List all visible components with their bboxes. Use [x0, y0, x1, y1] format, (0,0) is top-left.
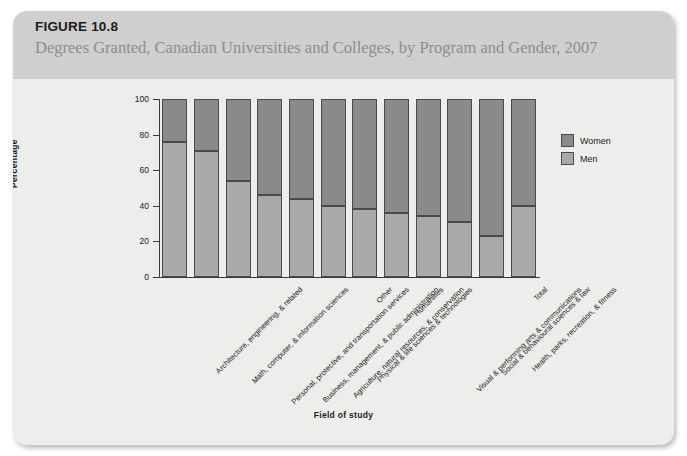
y-axis-tick-label: 60 [109, 165, 149, 175]
y-axis-tick-label: 40 [109, 201, 149, 211]
bar-segment-men[interactable] [416, 216, 441, 277]
bar-group[interactable] [384, 99, 409, 277]
y-axis-tick-label: 80 [109, 130, 149, 140]
y-axis-title: Percentage [13, 139, 19, 188]
bar-segment-women[interactable] [352, 99, 377, 209]
figure-number: FIGURE 10.8 [35, 19, 118, 34]
bar-segment-men[interactable] [194, 151, 219, 277]
x-axis-tick-label: Math, computer, & information sciences [249, 285, 349, 385]
bar-group[interactable] [226, 99, 251, 277]
y-axis-tick-labels: 020406080100 [105, 79, 149, 445]
bar-segment-women[interactable] [257, 99, 282, 195]
bar-segment-men[interactable] [511, 206, 536, 277]
y-axis-tick-label: 20 [109, 236, 149, 246]
bar-group[interactable] [511, 99, 536, 277]
bar-segment-women[interactable] [384, 99, 409, 213]
bar-segment-men[interactable] [321, 206, 346, 277]
bar-group[interactable] [289, 99, 314, 277]
bar-segment-men[interactable] [162, 142, 187, 277]
bar-group[interactable] [162, 99, 187, 277]
x-axis-tick-label: Agriculture, natural resources, & conser… [351, 285, 466, 400]
bar-segment-women[interactable] [447, 99, 472, 222]
bar-group[interactable] [352, 99, 377, 277]
chart-legend: WomenMen [561, 134, 657, 170]
bar-group[interactable] [416, 99, 441, 277]
bar-group[interactable] [194, 99, 219, 277]
legend-label: Women [580, 136, 611, 146]
bar-segment-men[interactable] [257, 195, 282, 277]
bar-segment-women[interactable] [194, 99, 219, 151]
bar-segment-men[interactable] [289, 199, 314, 277]
x-axis-tick-label: Architecture, engineering, & related [214, 285, 305, 376]
legend-label: Men [580, 154, 598, 164]
bar-segment-women[interactable] [511, 99, 536, 206]
bar-segment-women[interactable] [226, 99, 251, 181]
bar-segment-women[interactable] [289, 99, 314, 199]
x-axis-title: Field of study [13, 410, 674, 420]
figure-subtitle: Degrees Granted, Canadian Universities a… [35, 38, 597, 58]
chart-panel: Percentage 020406080100 Architecture, en… [13, 79, 674, 445]
legend-item[interactable]: Men [561, 152, 657, 165]
bar-group[interactable] [447, 99, 472, 277]
bar-segment-women[interactable] [321, 99, 346, 206]
bar-segment-women[interactable] [479, 99, 504, 236]
bar-group[interactable] [321, 99, 346, 277]
bar-group[interactable] [479, 99, 504, 277]
bar-segment-men[interactable] [479, 236, 504, 277]
bar-segment-men[interactable] [352, 209, 377, 277]
bar-segment-women[interactable] [162, 99, 187, 142]
x-axis-tick-labels: Architecture, engineering, & relatedMath… [159, 281, 540, 411]
bar-group[interactable] [257, 99, 282, 277]
y-axis-tick-label: 100 [109, 94, 149, 104]
figure-header-band: FIGURE 10.8 Degrees Granted, Canadian Un… [13, 11, 674, 79]
y-axis-tick-label: 0 [109, 272, 149, 282]
legend-swatch-women [561, 134, 574, 147]
x-axis-line [159, 277, 540, 278]
bar-segment-men[interactable] [384, 213, 409, 277]
legend-swatch-men [561, 152, 574, 165]
plot-area [159, 99, 539, 277]
x-axis-tick-label: Personal, protective, and transportation… [290, 285, 411, 406]
bar-segment-men[interactable] [226, 181, 251, 277]
bar-segment-men[interactable] [447, 222, 472, 277]
x-axis-tick-label: Total [532, 285, 550, 303]
figure-card: FIGURE 10.8 Degrees Granted, Canadian Un… [13, 11, 674, 445]
bar-segment-women[interactable] [416, 99, 441, 216]
legend-item[interactable]: Women [561, 134, 657, 147]
